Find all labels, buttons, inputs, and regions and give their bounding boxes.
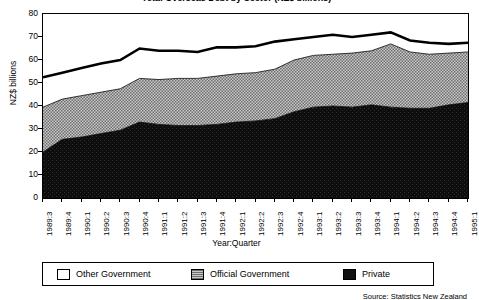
x-tick-mark: [312, 198, 313, 202]
x-axis-label: Year:Quarter: [0, 238, 473, 248]
y-tick-mark: [38, 151, 43, 152]
x-tick-mark: [274, 198, 275, 202]
legend-label: Private: [362, 269, 390, 279]
legend-label: Other Government: [76, 269, 151, 279]
x-tick-label: 1990:1: [84, 212, 92, 236]
x-tick-mark: [61, 198, 62, 202]
plot-region: [42, 13, 469, 199]
legend-swatch-icon: [191, 269, 204, 280]
x-tick-mark: [42, 198, 43, 202]
y-tick-mark: [38, 59, 43, 60]
x-tick-mark: [81, 198, 82, 202]
x-tick-mark: [235, 198, 236, 202]
x-tick-mark: [177, 198, 178, 202]
x-tick-mark: [158, 198, 159, 202]
x-tick-label: 1994:4: [451, 212, 459, 236]
x-tick-label: 1991:3: [200, 212, 208, 236]
chart-legend: Other GovernmentOfficial GovernmentPriva…: [42, 262, 434, 286]
y-tick-mark: [38, 174, 43, 175]
x-tick-label: 1993:3: [355, 212, 363, 236]
y-tick-mark: [38, 128, 43, 129]
x-tick-label: 1994:3: [432, 212, 440, 236]
y-tick-label: 10: [14, 170, 38, 178]
y-tick-label: 30: [14, 124, 38, 132]
y-tick-label: 50: [14, 78, 38, 86]
stacked-area-svg: [43, 14, 468, 198]
y-tick-label: 40: [14, 101, 38, 109]
x-tick-label: 1991:2: [181, 212, 189, 236]
x-tick-mark: [100, 198, 101, 202]
chart-area: NZ$ billions 80706050403020100 Year:Quar…: [0, 0, 473, 258]
x-tick-mark: [293, 198, 294, 202]
x-tick-label: 1993:1: [316, 212, 324, 236]
x-tick-mark: [197, 198, 198, 202]
x-tick-mark: [351, 198, 352, 202]
x-tick-label: 1994:2: [413, 212, 421, 236]
y-tick-mark: [38, 82, 43, 83]
x-tick-label: 1994:1: [393, 212, 401, 236]
x-tick-label: 1993:2: [335, 212, 343, 236]
x-tick-label: 1989:4: [65, 212, 73, 236]
x-tick-label: 1990:4: [142, 212, 150, 236]
x-tick-mark: [390, 198, 391, 202]
y-tick-mark: [38, 105, 43, 106]
legend-swatch-icon: [57, 269, 70, 280]
legend-item-other-government[interactable]: Other Government: [57, 269, 151, 280]
x-tick-mark: [370, 198, 371, 202]
x-tick-mark: [332, 198, 333, 202]
x-tick-label: 1990:3: [123, 212, 131, 236]
x-tick-mark: [409, 198, 410, 202]
x-tick-mark: [467, 198, 468, 202]
source-note: Source: Statistics New Zealand: [363, 292, 467, 300]
y-tick-mark: [38, 36, 43, 37]
x-tick-label: 1990:2: [103, 212, 111, 236]
legend-item-official-government[interactable]: Official Government: [191, 269, 289, 280]
x-tick-mark: [255, 198, 256, 202]
legend-item-private[interactable]: Private: [343, 269, 390, 280]
x-tick-label: 1992:4: [297, 212, 305, 236]
x-tick-label: 1989:3: [46, 212, 54, 236]
x-tick-mark: [428, 198, 429, 202]
x-tick-label: 1992:3: [277, 212, 285, 236]
x-tick-mark: [216, 198, 217, 202]
x-tick-mark: [448, 198, 449, 202]
x-tick-mark: [139, 198, 140, 202]
x-tick-label: 1992:2: [258, 212, 266, 236]
y-tick-label: 60: [14, 55, 38, 63]
legend-label: Official Government: [210, 269, 289, 279]
x-tick-label: 1992:1: [239, 212, 247, 236]
x-tick-label: 1995:1: [471, 212, 479, 236]
y-tick-label: 70: [14, 32, 38, 40]
legend-swatch-icon: [343, 269, 356, 280]
x-tick-label: 1991:4: [219, 212, 227, 236]
y-axis-tick-labels: 80706050403020100: [10, 0, 38, 258]
y-tick-label: 20: [14, 147, 38, 155]
y-tick-label: 80: [14, 9, 38, 17]
y-tick-label: 0: [14, 193, 38, 201]
x-tick-label: 1991:1: [161, 212, 169, 236]
x-tick-mark: [119, 198, 120, 202]
x-tick-label: 1993:4: [374, 212, 382, 236]
